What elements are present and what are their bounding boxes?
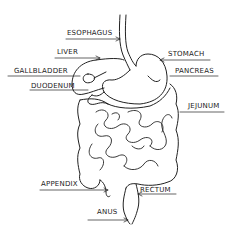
label-anus: ANUS	[97, 208, 117, 216]
label-duodenum: DUODENUM	[31, 82, 75, 90]
label-gallbladder: GALLBLADDER	[14, 67, 68, 75]
large-intestine-shape	[78, 84, 179, 189]
label-stomach: STOMACH	[168, 50, 205, 58]
esophagus-shape	[119, 15, 136, 70]
small-intestine-shape	[89, 110, 172, 170]
label-esophagus: ESOPHAGUS	[67, 29, 112, 37]
label-pancreas: PANCREAS	[175, 67, 214, 75]
digestive-system-diagram: ESOPHAGUS LIVER STOMACH GALLBLADDER PANC…	[0, 0, 237, 236]
label-appendix: APPENDIX	[41, 180, 78, 188]
label-rectum: RECTUM	[140, 186, 171, 194]
stomach-shape	[92, 54, 167, 104]
diagram-drawing	[0, 0, 237, 236]
gallbladder-shape	[83, 72, 106, 83]
label-jejunum: JEJUNUM	[188, 102, 219, 110]
label-liver: LIVER	[57, 48, 78, 56]
leader-lines	[8, 37, 224, 222]
rectum-shape	[123, 184, 139, 224]
